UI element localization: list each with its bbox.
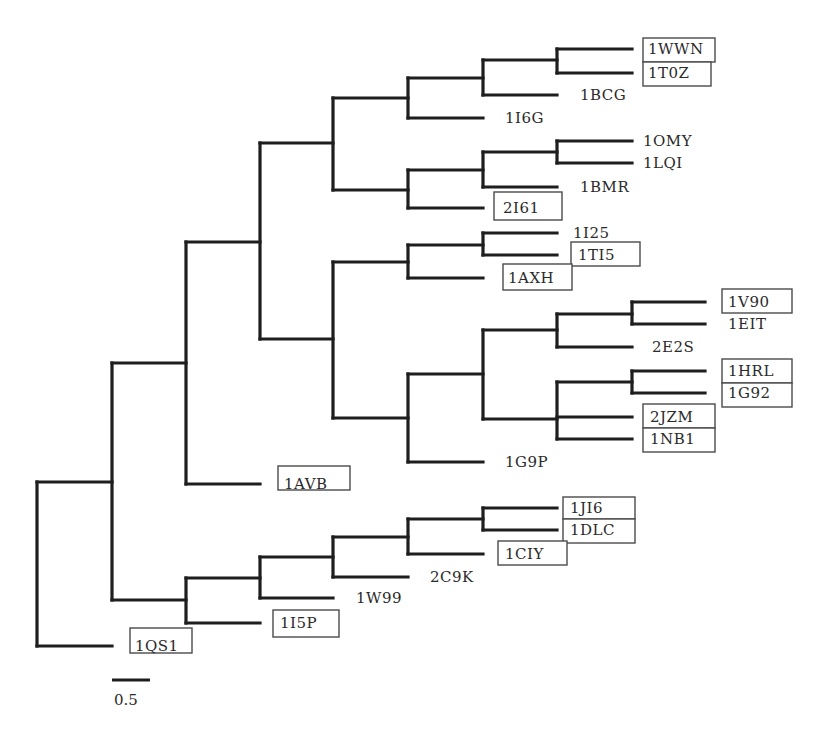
leaf-1qs1: 1QS1 [130,628,192,655]
leaf-2i61: 2I61 [494,192,562,220]
leaf-label: 1DLC [570,521,615,539]
leaf-1avb: 1AVB [278,466,350,493]
leaf-label: 1BMR [580,178,629,196]
leaf-1i5p: 1I5P [273,610,339,637]
leaf-label: 2C9K [430,568,474,586]
leaf-1g9p: 1G9P [505,453,548,471]
leaf-1w99: 1W99 [356,589,402,607]
leaf-label: 1WWN [648,40,704,58]
leaf-1t0z: 1T0Z [643,62,711,86]
leaf-label: 1NB1 [650,430,695,448]
leaf-label: 1I6G [505,109,544,127]
leaf-1ti5: 1TI5 [571,242,640,266]
leaf-label: 1CIY [505,545,544,563]
leaf-label: 1I5P [280,614,317,632]
leaf-label: 1AVB [284,475,327,493]
leaf-1hrl: 1HRL [722,359,792,383]
leaf-1eit: 1EIT [728,315,766,333]
tree-branches [37,49,705,646]
leaf-label: 1W99 [356,589,402,607]
leaf-1omy: 1OMY [643,132,693,150]
leaf-1lqi: 1LQI [643,154,683,172]
leaf-1wwn: 1WWN [643,38,715,62]
leaf-label: 1AXH [508,269,554,287]
scale-bar: 0.5 [112,680,150,709]
leaf-label: 1TI5 [578,246,615,264]
leaf-label: 1OMY [643,132,693,150]
leaf-2e2s: 2E2S [652,338,694,356]
leaf-1nb1: 1NB1 [643,428,715,452]
leaf-label: 2JZM [650,408,693,426]
leaf-label: 1HRL [728,362,774,380]
leaf-1axh: 1AXH [503,264,572,290]
leaf-label: 1EIT [728,315,766,333]
phylogenetic-tree: 1WWN1T0Z1BCG1I6G1OMY1LQI1BMR2I611I251TI5… [0,0,819,743]
leaf-label: 1G9P [505,453,548,471]
scale-bar-label: 0.5 [114,691,138,709]
leaf-label: 1JI6 [570,499,603,517]
leaf-label: 1I25 [573,224,610,242]
leaf-1dlc: 1DLC [563,519,635,543]
leaf-label: 1G92 [728,384,771,402]
leaf-1ji6: 1JI6 [563,497,635,519]
leaf-label: 1LQI [643,154,683,172]
leaf-2jzm: 2JZM [643,404,715,428]
leaf-labels: 1WWN1T0Z1BCG1I6G1OMY1LQI1BMR2I611I251TI5… [130,38,792,655]
leaf-label: 1BCG [580,86,626,104]
leaf-1g92: 1G92 [722,383,792,407]
leaf-1i6g: 1I6G [505,109,544,127]
leaf-label: 2E2S [652,338,694,356]
leaf-1bcg: 1BCG [580,86,626,104]
leaf-label: 1V90 [728,293,769,311]
leaf-label: 2I61 [503,199,540,217]
leaf-1ciy: 1CIY [498,541,567,565]
leaf-1v90: 1V90 [722,289,792,313]
leaf-1i25: 1I25 [573,224,610,242]
leaf-2c9k: 2C9K [430,568,474,586]
leaf-1bmr: 1BMR [580,178,629,196]
leaf-label: 1QS1 [135,637,179,655]
leaf-label: 1T0Z [648,64,690,82]
